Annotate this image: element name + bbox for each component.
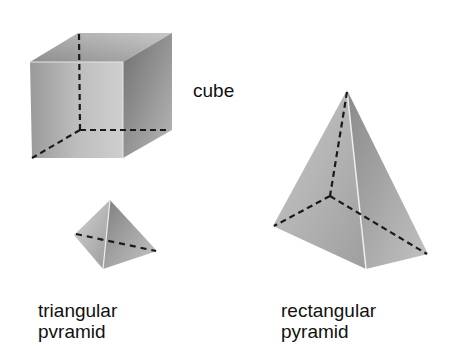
rectangular-pyramid-label: rectangular pyramid: [281, 300, 376, 342]
rectangular-pyramid-shape: [273, 90, 428, 269]
triangular-pyramid-shape: [74, 200, 157, 269]
triangular-pyramid-label-line1: triangular: [38, 300, 117, 321]
rectangular-pyramid-label-line2: pyramid: [281, 321, 376, 342]
cube-label: cube: [193, 80, 234, 101]
solids-figure: [0, 0, 452, 349]
cube-shape: [30, 33, 172, 158]
triangular-pyramid-label: triangular pvramid: [38, 300, 117, 342]
rectangular-pyramid-label-line1: rectangular: [281, 300, 376, 321]
triangular-pyramid-label-line2: pvramid: [38, 321, 117, 342]
cube-label-text: cube: [193, 80, 234, 101]
